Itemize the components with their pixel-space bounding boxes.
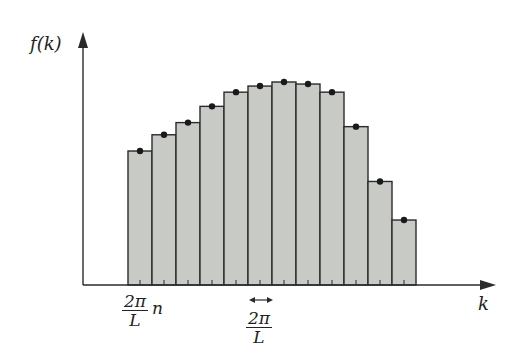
spacing-label-denominator: L	[246, 328, 272, 346]
bar	[128, 151, 152, 285]
data-point	[401, 217, 407, 223]
data-point	[161, 132, 167, 138]
data-point	[257, 83, 263, 89]
spacing-double-arrow-icon	[249, 297, 273, 303]
start-label-numerator: 2π	[122, 292, 148, 311]
data-point	[305, 81, 311, 87]
start-label-denominator: L	[122, 311, 148, 329]
data-point	[233, 89, 239, 95]
bar	[344, 127, 368, 285]
start-label: 2π L	[122, 292, 148, 329]
data-point	[185, 119, 191, 125]
bar	[176, 123, 200, 285]
bar	[296, 84, 320, 285]
data-point	[353, 123, 359, 129]
bar	[368, 181, 392, 285]
bar	[392, 220, 416, 285]
bar	[320, 92, 344, 285]
spacing-label: 2π L	[246, 309, 272, 346]
spacing-label-numerator: 2π	[246, 309, 272, 328]
data-point	[209, 103, 215, 109]
bar	[152, 135, 176, 285]
bar	[272, 82, 296, 285]
bars	[128, 79, 416, 285]
bar	[224, 92, 248, 285]
histogram-diagram	[0, 0, 513, 360]
y-axis-arrow-icon	[78, 32, 88, 48]
data-point	[281, 79, 287, 85]
data-point	[329, 89, 335, 95]
x-axis-label: k	[478, 293, 489, 314]
x-axis-arrow-icon	[480, 280, 496, 290]
start-label-n: n	[152, 298, 163, 318]
bar	[248, 86, 272, 285]
data-point	[377, 178, 383, 184]
y-axis-label: f(k)	[30, 33, 62, 54]
bar	[200, 106, 224, 285]
data-point	[137, 148, 143, 154]
